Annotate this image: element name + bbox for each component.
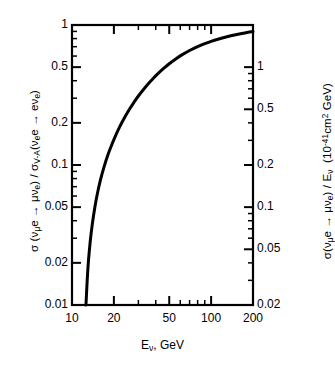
right-tick-label: 0.5 <box>257 101 301 115</box>
x-axis-ticks <box>72 25 253 305</box>
x-tick-label: 20 <box>92 311 136 325</box>
right-tick-label: 0.1 <box>257 199 301 213</box>
axis-frame <box>72 25 253 305</box>
data-curve-group <box>86 31 253 305</box>
right-tick-label: 0.05 <box>257 241 301 255</box>
left-axis-ticks <box>72 25 81 305</box>
right-axis-ticks <box>244 25 253 305</box>
left-tick-label: 0.02 <box>24 255 68 269</box>
left-tick-label: 0.1 <box>24 157 68 171</box>
plot-frame <box>72 25 253 305</box>
right-tick-label: 0.2 <box>257 157 301 171</box>
data-curve <box>86 31 253 305</box>
right-tick-label: 0.02 <box>257 297 301 311</box>
left-tick-label: 0.2 <box>24 115 68 129</box>
left-tick-label: 0.05 <box>24 199 68 213</box>
x-tick-label: 100 <box>189 311 233 325</box>
left-tick-label: 1 <box>24 17 68 31</box>
x-tick-label: 50 <box>147 311 191 325</box>
left-tick-label: 0.5 <box>24 59 68 73</box>
x-tick-label: 10 <box>50 311 94 325</box>
left-tick-label: 0.01 <box>24 297 68 311</box>
right-tick-label: 1 <box>257 59 301 73</box>
x-tick-label: 200 <box>231 311 275 325</box>
